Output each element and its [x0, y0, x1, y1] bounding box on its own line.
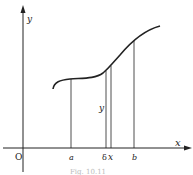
- function-curve: [53, 26, 160, 89]
- ordinate-y-label: y: [98, 103, 105, 113]
- x-axis-label: x: [175, 137, 181, 148]
- y-axis-label: y: [26, 14, 33, 24]
- point-delta-label: δ: [102, 153, 107, 162]
- point-a-label: a: [69, 153, 74, 162]
- point-x-label: x: [108, 152, 113, 162]
- y-axis-arrow-icon: [21, 5, 26, 13]
- origin-label: O: [15, 152, 22, 162]
- figure-caption: Fig. 10.11: [70, 168, 106, 175]
- point-b-label: b: [132, 153, 137, 162]
- x-axis-arrow-icon: [184, 146, 192, 151]
- function-graph-diagram: y x O a δ x b y Fig. 10.11: [0, 0, 193, 175]
